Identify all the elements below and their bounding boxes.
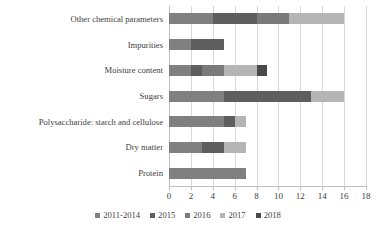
legend-item[interactable]: 2017 (220, 210, 245, 220)
bar-row (169, 13, 366, 24)
legend-swatch-icon (220, 213, 225, 218)
x-tick-label: 14 (318, 190, 327, 203)
bar-segment (224, 142, 246, 153)
bar-segment (257, 65, 268, 76)
bar-row (169, 65, 366, 76)
x-tick-label: 6 (232, 190, 237, 203)
bar-row (169, 39, 366, 50)
category-label: Polysaccharide: starch and cellulose (0, 117, 163, 127)
bar-segment (169, 13, 213, 24)
x-tick-label: 4 (211, 190, 216, 203)
bar-segment (191, 65, 202, 76)
bar-segment (169, 91, 224, 102)
legend-label: 2015 (158, 210, 175, 220)
bar-segment (224, 65, 257, 76)
bar-segment (202, 142, 224, 153)
legend-label: 2017 (228, 210, 245, 220)
x-tick-label: 16 (340, 190, 349, 203)
plot-area (169, 6, 366, 186)
x-tick-label: 0 (167, 190, 172, 203)
legend-label: 2016 (193, 210, 210, 220)
bar-row (169, 91, 366, 102)
x-tick-label: 2 (189, 190, 194, 203)
bar-segment (169, 142, 202, 153)
x-tick-label: 8 (254, 190, 259, 203)
category-label: Impurities (0, 40, 163, 50)
bar-segment (202, 65, 224, 76)
category-axis-labels: Other chemical parametersImpuritiesMoist… (0, 6, 163, 186)
category-label: Other chemical parameters (0, 14, 163, 24)
legend-item[interactable]: 2018 (256, 210, 281, 220)
legend-swatch-icon (256, 213, 261, 218)
legend-swatch-icon (185, 213, 190, 218)
x-tick-label: 18 (362, 190, 371, 203)
bar-row (169, 168, 366, 179)
x-axis-tick-labels: 024681012141618 (169, 190, 366, 204)
bar-segment (311, 91, 344, 102)
bar-segment (169, 65, 191, 76)
stacked-bar-chart: Other chemical parametersImpuritiesMoist… (0, 0, 376, 232)
bar-segment (191, 39, 224, 50)
bar-segment (224, 116, 235, 127)
bar-segment (224, 91, 312, 102)
category-label: Sugars (0, 91, 163, 101)
chart-legend: 2011-20142015201620172018 (0, 210, 376, 220)
legend-swatch-icon (95, 213, 100, 218)
legend-item[interactable]: 2015 (150, 210, 175, 220)
bar-segment (169, 39, 191, 50)
bar-segment (169, 116, 224, 127)
bar-segment (235, 116, 246, 127)
legend-label: 2011-2014 (103, 210, 140, 220)
legend-label: 2018 (264, 210, 281, 220)
category-label: Protein (0, 168, 163, 178)
bar-row (169, 142, 366, 153)
bar-segment (213, 13, 257, 24)
x-tick-label: 10 (274, 190, 283, 203)
bar-segment (289, 13, 344, 24)
bar-row (169, 116, 366, 127)
legend-swatch-icon (150, 213, 155, 218)
legend-item[interactable]: 2011-2014 (95, 210, 140, 220)
bar-segment (257, 13, 290, 24)
bar-segment (169, 168, 246, 179)
x-tick-label: 12 (296, 190, 305, 203)
bar-series-group (169, 6, 366, 186)
gridline-18 (366, 6, 367, 186)
legend-item[interactable]: 2016 (185, 210, 210, 220)
category-label: Moisture content (0, 65, 163, 75)
category-label: Dry matter (0, 142, 163, 152)
